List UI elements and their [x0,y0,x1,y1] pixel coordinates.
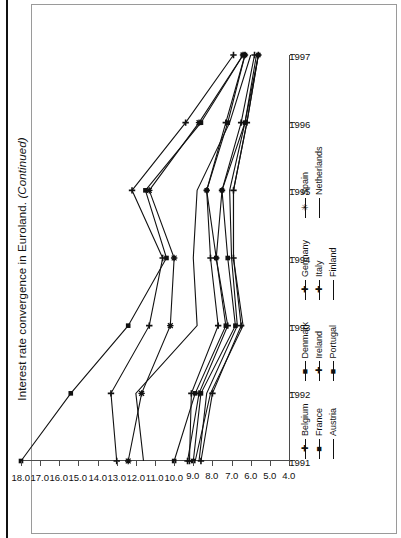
legend-label: Netherlands [314,146,324,195]
value-tick-label: 6.0 [246,469,256,482]
series-line [188,55,255,461]
value-tick [40,461,41,466]
data-point-marker [108,390,114,396]
data-point-marker [125,458,131,464]
value-tick-label: 10.0 [169,469,179,488]
legend-label: Belgium [300,403,310,436]
data-point-marker [126,323,131,328]
data-point-marker [215,322,221,328]
legend-column-1: ✚Belgium■FranceAustria [299,403,343,459]
data-point-marker [68,391,73,396]
value-tick-label-text: 18.0 [12,474,31,484]
legend-column-2: ■Denmark✚Ireland■Portugal [299,322,343,382]
legend-marker-icon [314,198,324,218]
legend-marker-icon: ✳ [300,198,310,218]
legend-item-finland[interactable]: Finland [327,240,339,300]
data-point-marker [198,458,204,464]
value-tick-label: 7.0 [227,469,237,482]
value-tick-label-text: 10.0 [165,474,184,484]
value-tick-label: 5.0 [265,469,275,482]
value-tick [59,461,60,466]
data-point-marker [225,256,230,261]
legend-marker-icon [328,439,338,459]
value-tick-label: 9.0 [188,469,198,482]
value-tick-label-text: 9.0 [186,471,199,481]
legend-column-3: ✚Germany✚ItalyFinland [299,240,343,300]
data-point-marker [146,187,152,193]
legend-item-germany[interactable]: ✚Germany [299,240,311,300]
data-point-marker [220,188,225,193]
legend-marker-icon: ✚ [300,439,310,459]
value-tick-label-text: 17.0 [31,474,50,484]
legend-marker-icon: ✚ [314,280,324,300]
value-tick-label: 4.0 [284,469,294,482]
value-tick-label-text: 4.0 [282,471,295,481]
value-tick-label-text: 6.0 [244,471,257,481]
value-tick-label-text: 12.0 [126,474,145,484]
legend-marker-icon: ■ [328,361,338,381]
chart-legend: ✚Belgium■FranceAustria■Denmark✚Ireland■P… [299,55,343,459]
legend-label: Italy [314,260,324,277]
legend-item-belgium[interactable]: ✚Belgium [299,403,311,459]
data-point-marker [138,390,144,396]
value-tick-label-text: 8.0 [206,471,219,481]
legend-marker-icon: ✚ [314,361,324,381]
legend-marker-icon [328,280,338,300]
legend-item-italy[interactable]: ✚Italy [313,240,325,300]
value-tick-label: 16.0 [54,469,64,488]
legend-label: Spain [300,172,310,195]
data-point-marker [171,255,177,261]
value-tick-label: 15.0 [73,469,83,488]
value-tick-label-text: 16.0 [50,474,69,484]
data-point-marker [207,255,213,261]
value-tick [136,461,137,466]
data-point-marker [199,391,204,396]
legend-marker-icon: ✚ [300,280,310,300]
value-tick-label-text: 14.0 [88,474,107,484]
value-tick [155,461,156,466]
value-tick [270,461,271,466]
legend-item-netherlands[interactable]: Netherlands [313,146,325,218]
value-tick [174,461,175,466]
data-point-marker [240,52,246,58]
legend-label: France [314,408,324,436]
series-france [191,53,261,464]
legend-item-ireland[interactable]: ✚Ireland [313,322,325,382]
data-point-marker [224,323,229,328]
legend-label: Portugal [328,325,338,359]
legend-marker-icon: ■ [300,361,310,381]
legend-label: Finland [328,247,338,277]
value-tick-label: 14.0 [93,469,103,488]
legend-item-portugal[interactable]: ■Portugal [327,322,339,382]
value-tick-label: 8.0 [207,469,217,482]
legend-item-austria[interactable]: Austria [327,403,339,459]
value-tick-label: 17.0 [35,469,45,488]
value-tick-label: 13.0 [112,469,122,488]
value-tick [212,461,213,466]
value-tick [251,461,252,466]
value-tick-label-text: 5.0 [263,471,276,481]
data-point-marker [196,119,202,125]
figure-page: Interest rate convergence in Euroland. (… [0,0,401,538]
value-tick [232,461,233,466]
legend-label: Germany [300,240,310,277]
data-point-marker [146,322,152,328]
value-tick-label-text: 7.0 [225,471,238,481]
legend-label: Ireland [314,331,324,359]
legend-item-denmark[interactable]: ■Denmark [299,322,311,382]
chart-canvas: 18.017.016.015.014.013.012.011.010.09.08… [13,21,347,517]
value-tick [193,461,194,466]
legend-item-france[interactable]: ■France [313,403,325,459]
legend-column-4: ✳SpainNetherlands [299,146,343,218]
legend-label: Denmark [300,322,310,359]
value-tick-label: 12.0 [131,469,141,488]
value-tick-label-text: 13.0 [107,474,126,484]
legend-marker-icon: ■ [314,439,324,459]
value-tick-label-text: 11.0 [146,473,164,483]
value-tick-label-text: 15.0 [69,474,88,484]
legend-item-spain[interactable]: ✳Spain [299,146,311,218]
value-tick-label: 18.0 [16,469,26,488]
legend-label: Austria [328,408,338,436]
time-tick-label-text: 1991 [289,458,310,468]
data-point-marker [167,322,173,328]
